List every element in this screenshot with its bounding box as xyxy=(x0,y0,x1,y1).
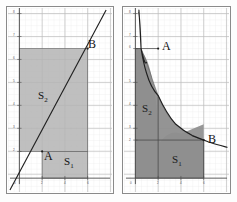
left-region-s1-label: S1 xyxy=(64,156,74,170)
right-point-a-label: A xyxy=(162,40,171,52)
right-xtick-0: 0 xyxy=(130,182,132,185)
right-ytick-4: 4 xyxy=(129,103,131,106)
left-panel-plot-area: 8 7 6 5 4 3 2 0 2 4 6 A B S2 S1 xyxy=(8,8,112,192)
two-panel-figure: 8 7 6 5 4 3 2 0 2 4 6 A B S2 S1 xyxy=(0,0,237,202)
left-xtick-0: 0 xyxy=(14,182,16,185)
left-s1-sub: 1 xyxy=(70,162,74,170)
right-panel-plot-area: 8 7 6 5 4 3 2 0 2 4 6 A B S2 S1 xyxy=(124,8,229,192)
left-panel: 8 7 6 5 4 3 2 0 2 4 6 A B S2 S1 xyxy=(6,6,114,194)
left-point-a-label: A xyxy=(44,150,53,162)
right-point-b-marker xyxy=(203,139,205,141)
left-ytick-7: 7 xyxy=(13,34,15,37)
left-xtick-6: 6 xyxy=(87,182,89,185)
left-s2-sub: 2 xyxy=(44,96,48,104)
right-region-s2-label: S2 xyxy=(142,103,152,117)
right-ytick-8: 8 xyxy=(129,11,131,14)
left-xtick-4: 4 xyxy=(64,182,66,185)
right-ytick-7: 7 xyxy=(129,34,131,37)
left-ytick-5: 5 xyxy=(13,80,15,83)
right-region-s1-label: S1 xyxy=(172,154,182,168)
left-point-b-label: B xyxy=(88,38,96,50)
left-xtick-2: 2 xyxy=(41,182,43,185)
right-point-a-marker xyxy=(157,47,159,49)
left-ytick-4: 4 xyxy=(13,103,15,106)
left-ytick-3: 3 xyxy=(13,126,15,129)
left-ytick-6: 6 xyxy=(13,57,15,60)
right-ytick-6: 6 xyxy=(129,46,131,49)
left-ytick-2: 2 xyxy=(13,149,15,152)
left-point-a-marker xyxy=(41,150,43,152)
right-ytick-5: 5 xyxy=(129,80,131,83)
right-xtick-2: 2 xyxy=(157,182,159,185)
right-ytick-3: 3 xyxy=(129,126,131,129)
right-point-b-label: B xyxy=(208,133,216,145)
right-s1-sub: 1 xyxy=(178,160,182,168)
right-s2-sub: 2 xyxy=(148,109,152,117)
left-panel-graph xyxy=(8,8,112,192)
right-panel: 8 7 6 5 4 3 2 0 2 4 6 A B S2 S1 xyxy=(122,6,231,194)
right-ytick-2: 2 xyxy=(129,139,131,142)
right-xtick-4: 4 xyxy=(180,182,182,185)
left-region-s2-label: S2 xyxy=(38,90,48,104)
right-xtick-6: 6 xyxy=(203,182,205,185)
left-ytick-8: 8 xyxy=(13,11,15,14)
